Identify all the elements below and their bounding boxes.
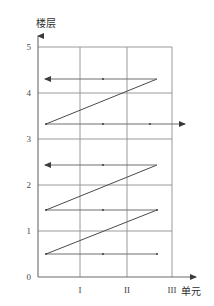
stair-flight-1 — [45, 210, 158, 255]
node-dot — [102, 78, 104, 80]
node-dot — [102, 253, 104, 255]
y-tick-label-5: 5 — [27, 42, 32, 52]
stair-flight-3 — [45, 79, 185, 125]
node-dot — [156, 209, 158, 211]
node-dot — [156, 253, 158, 255]
y-tick-label-3: 3 — [27, 134, 32, 144]
stair-flight-2 — [45, 165, 158, 211]
diagram-canvas: 0 1 2 3 4 5 I II III 楼层 单元 — [0, 0, 214, 306]
stair-diagonal-2 — [46, 165, 157, 210]
y-tick-label-0: 0 — [27, 272, 32, 282]
x-axis-label: 单元 — [181, 286, 201, 297]
x-tick-label-unit-1: I — [79, 285, 82, 295]
node-dot — [149, 123, 151, 125]
y-tick-labels: 0 1 2 3 4 5 — [27, 42, 32, 282]
node-dot — [49, 78, 51, 80]
node-dot — [102, 123, 104, 125]
y-tick-label-4: 4 — [27, 88, 32, 98]
landing-exit-4-35 — [45, 78, 157, 80]
vertical-gridlines — [80, 47, 172, 277]
landing-exit-2-6 — [45, 164, 157, 166]
stair-diagonal-1 — [46, 210, 157, 254]
y-tick-label-2: 2 — [27, 180, 32, 190]
x-tick-label-unit-2: II — [124, 285, 130, 295]
x-tick-label-unit-3: III — [168, 285, 177, 295]
node-dot — [45, 123, 47, 125]
node-dot — [45, 209, 47, 211]
node-dot — [45, 253, 47, 255]
horizontal-gridlines — [38, 47, 172, 231]
node-dot — [102, 209, 104, 211]
node-dot — [102, 164, 104, 166]
stair-diagonal-3 — [46, 79, 157, 124]
y-axis-label: 楼层 — [36, 17, 56, 29]
y-tick-label-1: 1 — [27, 226, 32, 236]
floor-unit-diagram: 0 1 2 3 4 5 I II III 楼层 单元 — [0, 0, 214, 306]
x-tick-labels: I II III — [79, 285, 177, 295]
node-dot — [49, 164, 51, 166]
